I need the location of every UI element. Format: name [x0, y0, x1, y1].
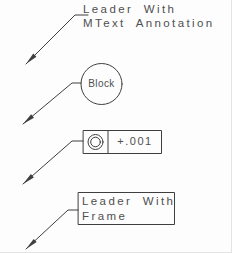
mtext-annotation-line1: Leader With	[83, 2, 215, 16]
tolerance-value-label: +.001	[109, 135, 161, 148]
block-label: Block	[81, 78, 122, 90]
tolerance-leader-line	[23, 141, 83, 184]
frame-label-line1: Leader With	[82, 194, 175, 209]
concentricity-icon	[88, 135, 103, 150]
frame-label: Leader With Frame	[82, 194, 175, 224]
block-leader-line	[23, 83, 81, 124]
mtext-leader-line	[26, 15, 88, 64]
mtext-annotation-label: Leader With MText Annotation	[83, 2, 215, 30]
frame-leader-line	[26, 210, 78, 249]
drawing-canvas[interactable]: Leader With MText Annotation Block +.001…	[0, 0, 232, 253]
mtext-annotation-line2: MText Annotation	[83, 16, 215, 30]
frame-label-line2: Frame	[82, 209, 175, 224]
